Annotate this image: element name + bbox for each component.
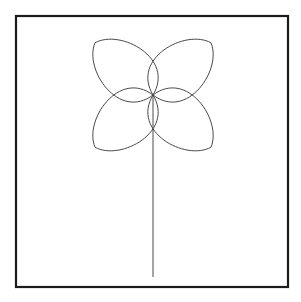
border-frame xyxy=(16,16,288,287)
vector-drawing xyxy=(0,0,301,302)
drawing-canvas xyxy=(0,0,301,302)
